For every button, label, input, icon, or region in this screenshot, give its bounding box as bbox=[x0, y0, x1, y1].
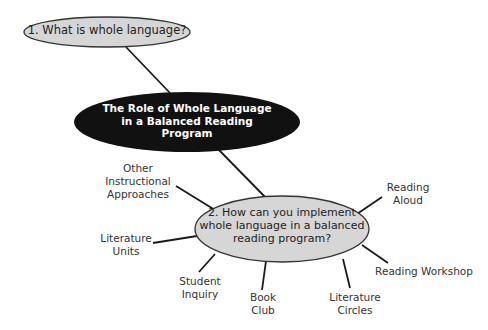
branch-label-line: Reading Workshop bbox=[366, 265, 482, 278]
branch-label-line: Literature bbox=[324, 291, 386, 304]
branch-label-line: Other bbox=[102, 162, 174, 175]
branch-label-line: Inquiry bbox=[172, 288, 228, 301]
branch-label-line: Literature bbox=[96, 232, 156, 245]
branch-label-line: Instructional bbox=[102, 175, 174, 188]
main-topic-text: The Role of Whole Language in a Balanced… bbox=[74, 102, 300, 140]
branch-literature-circles: Literature Circles bbox=[324, 291, 386, 317]
concept-map-canvas bbox=[0, 0, 488, 330]
question-1-line: 1. What is whole language? bbox=[24, 24, 190, 38]
main-topic-line: in a Balanced Reading bbox=[74, 115, 300, 128]
question-2-line: 2. How can you implement bbox=[195, 206, 369, 219]
branch-label-line: Club bbox=[242, 304, 284, 317]
connector-literature-units bbox=[153, 236, 197, 243]
branch-label-line: Book bbox=[242, 291, 284, 304]
connector-q1-to-main bbox=[126, 47, 170, 93]
branch-other-instructional-approaches: Other Instructional Approaches bbox=[102, 162, 174, 201]
branch-label-line: Units bbox=[96, 245, 156, 258]
main-topic-line: The Role of Whole Language bbox=[74, 102, 300, 115]
question-2-text: 2. How can you implement whole language … bbox=[195, 206, 369, 246]
connector-main-to-q2 bbox=[218, 149, 268, 200]
branch-label-line: Aloud bbox=[380, 194, 436, 207]
question-1-text: 1. What is whole language? bbox=[24, 24, 190, 38]
branch-reading-workshop: Reading Workshop bbox=[366, 265, 482, 278]
branch-label-line: Approaches bbox=[102, 188, 174, 201]
question-2-line: reading program? bbox=[195, 232, 369, 245]
branch-label-line: Student bbox=[172, 275, 228, 288]
connector-literature-circles bbox=[343, 259, 350, 288]
branch-label-line: Circles bbox=[324, 304, 386, 317]
connector-book-club bbox=[262, 261, 266, 290]
branch-reading-aloud: Reading Aloud bbox=[380, 181, 436, 207]
main-topic-line: Program bbox=[74, 127, 300, 140]
branch-book-club: Book Club bbox=[242, 291, 284, 317]
branch-student-inquiry: Student Inquiry bbox=[172, 275, 228, 301]
connector-reading-workshop bbox=[362, 245, 388, 263]
concept-map: 1. What is whole language? The Role of W… bbox=[0, 0, 488, 330]
branch-label-line: Reading bbox=[380, 181, 436, 194]
connector-student-inquiry bbox=[199, 254, 215, 272]
branch-literature-units: Literature Units bbox=[96, 232, 156, 258]
question-2-line: whole language in a balanced bbox=[195, 219, 369, 232]
